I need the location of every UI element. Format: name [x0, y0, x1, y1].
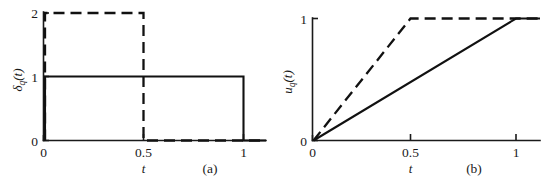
x-tick-label-0-a: 0	[40, 145, 47, 160]
y-tick-label-2-a: 2	[31, 6, 38, 21]
data-curve-solid-b	[314, 19, 541, 141]
x-tick-label-1-a: 1	[240, 145, 247, 160]
x-tick-label-05-b: 0.5	[402, 145, 419, 160]
y-axis-title-b: uq(t)	[280, 70, 297, 94]
y-axis-title-arg-a: (t)	[10, 68, 25, 80]
chart-svg-b: 1 0 0 0.5 1 t (b) uq(t)	[274, 0, 548, 178]
y-tick-label-0-b: 0	[300, 134, 307, 149]
y-axis-title-a: δq(t)	[10, 68, 27, 91]
y-tick-label-0-a: 0	[31, 134, 38, 149]
x-tick-label-05-a: 0.5	[135, 145, 152, 160]
x-axis-title-b: t	[409, 161, 413, 176]
y-axis-title-group-a: δq(t)	[10, 68, 27, 91]
y-axis-title-group-b: uq(t)	[280, 70, 297, 94]
chart-panel-a: 2 1 0 0 0.5 1 t (a) δq(t)	[0, 0, 274, 178]
y-tick-label-1-a: 1	[31, 70, 38, 85]
data-curve-solid-a	[45, 77, 266, 141]
panel-label-b: (b)	[466, 161, 482, 176]
figure-two-panel-plot: 2 1 0 0 0.5 1 t (a) δq(t)	[0, 0, 548, 178]
y-tick-label-1-b: 1	[300, 12, 307, 27]
x-tick-label-0-b: 0	[309, 145, 316, 160]
chart-svg-a: 2 1 0 0 0.5 1 t (a) δq(t)	[0, 0, 274, 178]
panel-label-a: (a)	[203, 161, 218, 176]
chart-panel-b: 1 0 0 0.5 1 t (b) uq(t)	[274, 0, 548, 178]
x-axis-title-a: t	[142, 161, 146, 176]
x-tick-label-1-b: 1	[513, 145, 520, 160]
y-axis-title-arg-b: (t)	[280, 70, 295, 82]
data-curve-dashed-b	[314, 19, 541, 141]
